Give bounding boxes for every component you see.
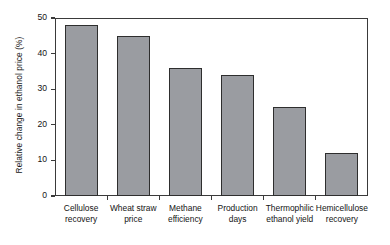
bar — [169, 68, 202, 196]
y-tick-label: 30 — [37, 83, 47, 93]
y-tick-label: 40 — [37, 48, 47, 58]
x-tick-mark — [159, 196, 160, 200]
y-tick-label: 0 — [42, 190, 47, 200]
y-tick-label: 10 — [37, 154, 47, 164]
x-axis-label-line: Methane — [155, 203, 215, 214]
bar — [117, 36, 150, 196]
x-axis-label-line: price — [103, 214, 163, 225]
bar — [221, 75, 254, 196]
y-tick-mark — [51, 160, 55, 161]
x-axis-label-line: days — [208, 214, 268, 225]
chart-figure: Relative change in ethanol price (%) 010… — [0, 0, 390, 245]
x-tick-mark — [211, 196, 212, 200]
bar — [325, 153, 358, 196]
x-axis-label: Thermophilicethanol yield — [260, 203, 320, 224]
bar — [65, 25, 98, 196]
x-axis-label-line: Production — [208, 203, 268, 214]
x-axis-label: Methaneefficiency — [155, 203, 215, 224]
x-axis-label: Celluloserecovery — [51, 203, 111, 224]
x-axis-label: Productiondays — [208, 203, 268, 224]
y-tick-mark — [51, 53, 55, 54]
x-axis-label-line: Wheat straw — [103, 203, 163, 214]
x-tick-mark — [107, 196, 108, 200]
x-axis-label-line: ethanol yield — [260, 214, 320, 225]
y-tick-mark — [51, 17, 55, 18]
y-tick-mark — [51, 195, 55, 196]
y-axis-title: Relative change in ethanol price (%) — [10, 7, 28, 203]
x-axis-label: Wheat strawprice — [103, 203, 163, 224]
y-tick-label: 50 — [37, 12, 47, 22]
x-axis-label-line: efficiency — [155, 214, 215, 225]
x-axis-label-line: recovery — [51, 214, 111, 225]
x-tick-mark — [263, 196, 264, 200]
y-tick-mark — [51, 89, 55, 90]
x-axis-label-line: Thermophilic — [260, 203, 320, 214]
plot-area — [55, 18, 368, 196]
y-tick-label: 20 — [37, 119, 47, 129]
x-tick-mark — [315, 196, 316, 200]
y-tick-mark — [51, 124, 55, 125]
x-axis-label-line: Cellulose — [51, 203, 111, 214]
x-axis-label-line: Hemicellulose — [312, 203, 372, 214]
x-axis-label-line: recovery — [312, 214, 372, 225]
bar — [273, 107, 306, 196]
x-axis-label: Hemicelluloserecovery — [312, 203, 372, 224]
